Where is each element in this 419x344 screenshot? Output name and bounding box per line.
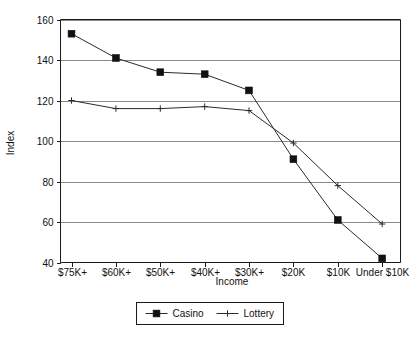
legend-label-casino: Casino: [173, 308, 205, 319]
y-tick-label-60: 60: [42, 217, 54, 228]
legend-label-lottery: Lottery: [244, 308, 275, 319]
data-point-casino-5: [290, 156, 297, 163]
data-point-casino-1: [113, 55, 120, 62]
legend-marker-casino: [153, 310, 160, 317]
data-point-casino-4: [246, 87, 253, 94]
y-tick-label-40: 40: [42, 258, 54, 269]
y-tick-label-120: 120: [37, 96, 54, 107]
x-tick-label-7: Under $10K: [356, 267, 410, 278]
y-tick-label-140: 140: [37, 55, 54, 66]
y-tick-label-100: 100: [37, 136, 54, 147]
chart-background: [0, 0, 419, 344]
data-point-casino-2: [157, 69, 164, 76]
data-point-casino-7: [379, 255, 386, 262]
data-point-casino-6: [334, 217, 341, 224]
data-point-casino-0: [68, 30, 75, 37]
chart-legend: CasinoLottery: [137, 303, 284, 325]
y-axis-title: Index: [5, 131, 16, 155]
x-tick-label-2: $50K+: [146, 267, 175, 278]
x-tick-label-6: $10K: [327, 267, 351, 278]
data-point-casino-3: [201, 71, 208, 78]
x-tick-label-0: $75K+: [58, 267, 87, 278]
x-tick-label-1: $60K+: [102, 267, 131, 278]
y-tick-label-160: 160: [37, 15, 54, 26]
x-axis-title: Income: [216, 276, 249, 287]
line-chart: 406080100120140160 $75K+$60K+$50K+$40K+$…: [0, 0, 419, 344]
chart-canvas: 406080100120140160 $75K+$60K+$50K+$40K+$…: [0, 0, 419, 344]
x-tick-label-5: $20K: [282, 267, 306, 278]
y-tick-label-80: 80: [42, 177, 54, 188]
